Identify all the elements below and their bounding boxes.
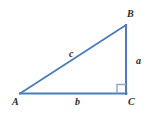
side-label-a: a xyxy=(136,56,141,66)
side-c-line xyxy=(20,25,126,94)
side-label-c: c xyxy=(69,49,73,59)
vertex-label-a: A xyxy=(12,97,19,107)
vertex-label-c: C xyxy=(128,97,135,107)
right-triangle-figure: B A C a b c xyxy=(0,0,158,120)
right-angle-marker-icon xyxy=(117,85,126,94)
vertex-label-b: B xyxy=(127,9,134,19)
side-label-b: b xyxy=(75,97,80,107)
